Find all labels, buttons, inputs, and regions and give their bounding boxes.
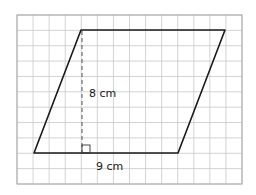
height-label: 8 cm [89, 87, 116, 100]
right-angle-marker [82, 145, 90, 153]
grid-paper [17, 15, 242, 184]
base-label: 9 cm [96, 160, 123, 173]
parallelogram-diagram: 8 cm 9 cm [0, 0, 256, 195]
